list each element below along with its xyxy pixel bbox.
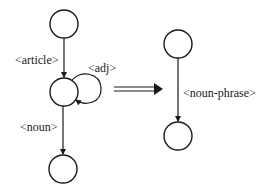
node-left-bottom: [49, 155, 77, 183]
double-arrow-icon: [114, 83, 163, 95]
label-adj: <adj>: [88, 61, 116, 75]
node-left-middle: [50, 78, 78, 106]
diagram-canvas: <article> <adj> <noun> <noun-phrase>: [0, 0, 276, 190]
label-noun-phrase: <noun-phrase>: [183, 86, 256, 100]
label-noun: <noun>: [20, 120, 58, 134]
node-right-top: [164, 30, 192, 58]
node-left-top: [50, 10, 78, 38]
node-right-bottom: [164, 122, 192, 150]
label-article: <article>: [15, 53, 59, 67]
